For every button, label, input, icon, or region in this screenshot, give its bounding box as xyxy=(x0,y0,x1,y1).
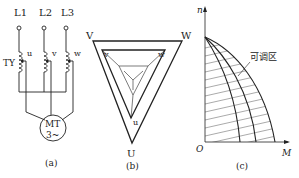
svg-text:V: V xyxy=(85,30,94,41)
origin-label: O xyxy=(196,144,204,154)
panel-a-labels: L1 L2 L3 u v w TY MT 3~ (a) xyxy=(3,7,81,168)
caption-c: (c) xyxy=(236,161,248,171)
motor-phase-label: 3~ xyxy=(46,130,59,140)
svg-text:v: v xyxy=(103,50,109,59)
panel-c-labels: n M O 可调区 (c) xyxy=(196,5,292,171)
region-label: 可调区 xyxy=(250,52,277,62)
caption-b: (b) xyxy=(126,161,139,171)
svg-text:U: U xyxy=(127,148,135,159)
panel-c-chart xyxy=(203,6,290,160)
motor-label: MT xyxy=(45,119,60,129)
svg-text:L3: L3 xyxy=(61,7,74,18)
tap-v: v xyxy=(51,49,57,58)
figure: L1 L2 L3 u v w TY MT 3~ (a) V W U v w u … xyxy=(0,0,299,178)
y-axis-label: n xyxy=(197,5,203,15)
svg-text:w: w xyxy=(158,50,165,59)
svg-text:L2: L2 xyxy=(39,7,52,18)
svg-text:L1: L1 xyxy=(14,7,27,18)
tap-w: w xyxy=(74,49,81,58)
tap-u: u xyxy=(27,49,32,58)
svg-text:W: W xyxy=(181,30,192,41)
svg-text:u: u xyxy=(133,118,138,127)
x-axis-label: M xyxy=(281,148,292,158)
caption-a: (a) xyxy=(45,158,57,168)
regulator-label: TY xyxy=(3,58,16,68)
panel-b-labels: V W U v w u (b) xyxy=(85,30,192,171)
